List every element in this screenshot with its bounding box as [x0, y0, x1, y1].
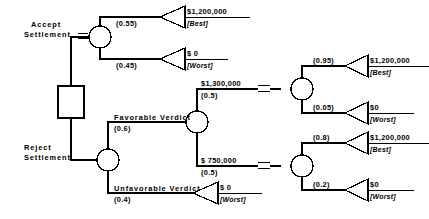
branch-label-accept-line1: Accept [31, 20, 61, 29]
probability-award-750000: (0.5) [201, 168, 218, 177]
payoff-accept-best: $1,200,000 [187, 7, 227, 16]
award-amount-750000: $ 750,000 [201, 156, 237, 165]
event-label-unfavorable: Unfavorable Verdict [114, 184, 201, 193]
edge-root-to-reject [71, 118, 96, 160]
decision-tree-diagram: Accept Settlement (0.55) (0.45) $1,200,0… [0, 0, 429, 219]
pruned-mark-accept [78, 34, 88, 39]
payoff-tag-award750000-worst: [Worst] [370, 192, 396, 201]
payoff-accept-worst: $ 0 [187, 49, 198, 58]
chance-node-reject[interactable] [97, 149, 119, 171]
decision-node-root[interactable] [58, 86, 84, 118]
probability-award750000-worst: (0.2) [313, 180, 330, 189]
chance-node-award1300000[interactable] [291, 78, 313, 100]
probability-award1300000-worst: (0.05) [313, 103, 334, 112]
pruned-mark-award750000 [258, 163, 270, 169]
terminal-triangle-award750000-best [345, 132, 368, 154]
event-label-favorable: Favorable Verdict [114, 113, 191, 122]
payoff-tag-unfavorable: [Worst] [220, 195, 246, 204]
branch-label-reject-line1: Reject [24, 143, 52, 152]
terminal-triangle-award1300000-best [345, 55, 368, 77]
pruned-mark-award1300000 [258, 86, 270, 92]
payoff-award750000-best: $1,200,000 [370, 133, 410, 142]
edge-award750000-best [302, 143, 345, 155]
probability-unfavorable: (0.4) [114, 195, 131, 204]
terminal-triangle-accept-worst [160, 48, 185, 70]
payoff-tag-award750000-best: [Best] [370, 145, 391, 154]
payoff-award1300000-worst: $0 [370, 103, 379, 112]
probability-award-1300000: (0.5) [201, 91, 218, 100]
edge-award1300000-best [302, 66, 345, 78]
edge-root-to-accept [71, 37, 88, 86]
probability-award750000-best: (0.8) [313, 133, 330, 142]
payoff-tag-award1300000-worst: [Worst] [370, 115, 396, 124]
terminal-triangle-accept-best [160, 6, 185, 28]
branch-label-accept-line2: Settlement [24, 30, 71, 39]
branch-label-reject-line2: Settlement [24, 153, 71, 162]
payoff-award1300000-best: $1,200,000 [370, 56, 410, 65]
award-amount-1300000: $1,300,000 [201, 79, 241, 88]
probability-favorable: (0.6) [114, 124, 131, 133]
terminal-triangle-award750000-worst [345, 179, 368, 201]
probability-accept-worst: (0.45) [116, 61, 137, 70]
payoff-unfavorable: $ 0 [220, 183, 231, 192]
payoff-tag-award1300000-best: [Best] [370, 68, 391, 77]
chance-node-accept[interactable] [89, 26, 111, 48]
chance-node-award750000[interactable] [291, 155, 313, 177]
payoff-tag-accept-best: [Best] [187, 19, 208, 28]
terminal-triangle-award1300000-worst [345, 102, 368, 124]
probability-award1300000-best: (0.95) [313, 56, 334, 65]
edge-accept-worst [100, 48, 160, 59]
probability-accept-best: (0.55) [116, 19, 137, 28]
payoff-tag-accept-worst: [Worst] [187, 61, 213, 70]
payoff-award750000-worst: $0 [370, 180, 379, 189]
